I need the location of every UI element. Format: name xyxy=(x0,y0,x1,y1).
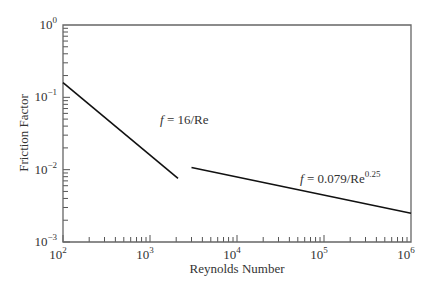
y-tick-label: 10−2 xyxy=(34,160,57,177)
plot-frame xyxy=(63,25,411,242)
curve-label-turbulent: f = 0.079/Re0.25 xyxy=(300,169,381,186)
tick-labels: 10210310410510610010−110−210−3 xyxy=(34,15,415,262)
x-axis-label: Reynolds Number xyxy=(190,261,286,276)
friction-factor-chart: 10210310410510610010−110−210−3 f = 16/Re… xyxy=(0,0,439,290)
x-tick-label: 104 xyxy=(223,245,241,262)
x-tick-label: 105 xyxy=(310,245,328,262)
axis-ticks xyxy=(63,28,407,242)
x-tick-label: 102 xyxy=(49,245,67,262)
y-tick-label: 100 xyxy=(40,15,58,32)
y-axis-label: Friction Factor xyxy=(16,94,31,172)
x-tick-label: 103 xyxy=(136,245,154,262)
curve-label-laminar: f = 16/Re xyxy=(160,112,209,127)
y-tick-label: 10−1 xyxy=(34,87,57,104)
data-curves xyxy=(63,83,411,214)
curve-laminar xyxy=(63,83,178,179)
x-tick-label: 106 xyxy=(397,245,415,262)
